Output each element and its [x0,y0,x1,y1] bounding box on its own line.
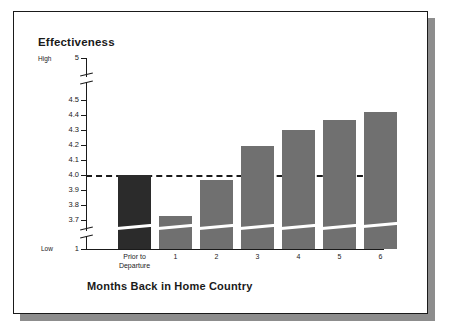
bar-month-1 [159,216,192,249]
bar-axis-break-slash [117,224,153,230]
plot-area: High 5 4.5 4.4 4.3 [14,12,429,315]
bar-month-3 [241,146,274,249]
y-tick-label-4-2: 4.2 [69,141,79,149]
bar-axis-break-slash [363,222,399,228]
bar-month-4 [282,130,315,249]
bar-axis-break-slash [240,224,276,230]
y-axis-high-label: High [38,55,51,63]
bar-prior-to-departure [118,175,151,249]
y-tick-4-5 [81,100,86,101]
chart-card: Effectiveness High 5 4.5 4.4 [13,11,428,314]
y-tick-label-4-1: 4.1 [69,156,79,164]
y-tick-4-3 [81,130,86,131]
bar-axis-break-slash [281,224,317,230]
y-tick-4-4 [81,115,86,116]
y-tick-label-5: 5 [75,54,79,62]
y-tick-label-4-5: 4.5 [69,96,79,104]
bar-month-2 [200,180,233,249]
y-tick-label-3-8: 3.8 [69,201,79,209]
chart-screenshot: Effectiveness High 5 4.5 4.4 [0,0,452,331]
bar-month-6 [364,112,397,249]
y-tick-1 [81,249,86,250]
x-axis-line [86,249,384,250]
bar-axis-break-slash [322,224,358,230]
y-axis-low-label: Low [41,245,53,253]
y-tick-3-9 [81,190,86,191]
x-axis-title: Months Back in Home Country [87,280,253,292]
bar-month-5 [323,120,356,249]
bar-axis-break-slash [158,224,194,230]
y-axis-break-lower [80,228,93,239]
y-tick-label-1: 1 [75,245,79,253]
y-tick-3-8 [81,205,86,206]
bar-axis-break-slash [199,224,235,230]
x-tick-label-6: 6 [356,253,405,262]
y-tick-label-3-9: 3.9 [69,186,79,194]
y-axis-line [86,58,87,250]
y-tick-label-4-4: 4.4 [69,111,79,119]
y-tick-label-4-3: 4.3 [69,126,79,134]
y-tick-label-4-0: 4.0 [69,171,79,179]
y-tick-4-1 [81,160,86,161]
y-tick-label-3-7: 3.7 [69,216,79,224]
y-tick-5 [81,58,86,59]
y-tick-4-2 [81,145,86,146]
y-tick-3-7 [81,220,86,221]
y-axis-break-upper [80,74,93,85]
